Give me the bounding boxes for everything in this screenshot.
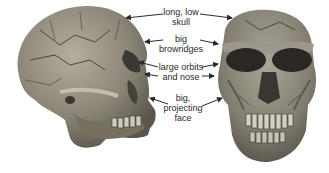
label-big-browridges: big browridges [152,34,210,54]
label-big-projecting-face: big, projecting face [158,93,208,123]
front-view-skull [218,10,316,162]
label-large-orbits-and-nose: large orbits and nose [154,62,208,82]
label-long-low-skull: long, low skull [158,7,204,27]
figure: long, low skull big browridges large orb… [0,0,329,173]
side-view-skull [18,6,156,148]
